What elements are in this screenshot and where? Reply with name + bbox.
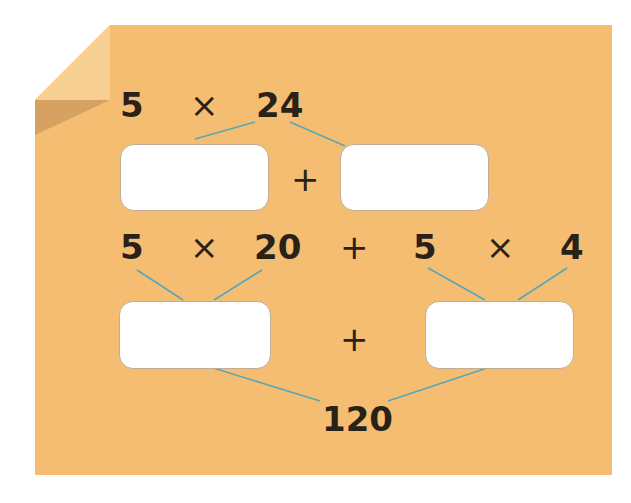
folded-corner-icon [35, 25, 110, 100]
plus-sign: + [291, 162, 320, 196]
factor-4: 4 [560, 230, 584, 264]
answer-box-5x4[interactable] [425, 301, 574, 369]
plus-sign: + [340, 230, 369, 264]
answer-box[interactable] [340, 144, 489, 211]
result-120: 120 [322, 402, 393, 436]
times-sign: × [486, 230, 515, 264]
times-sign: × [190, 88, 219, 122]
times-sign: × [190, 230, 219, 264]
factor-24: 24 [256, 88, 303, 122]
factor-5: 5 [413, 230, 437, 264]
answer-box[interactable] [120, 144, 269, 211]
paper-background [0, 0, 631, 503]
answer-box-5x20[interactable] [119, 301, 271, 369]
plus-sign: + [340, 322, 369, 356]
factor-20: 20 [254, 230, 301, 264]
worksheet-card: 5 × 24 + 5 × 20 + 5 × 4 + 120 [0, 0, 631, 503]
factor-5: 5 [120, 88, 144, 122]
factor-5: 5 [120, 230, 144, 264]
